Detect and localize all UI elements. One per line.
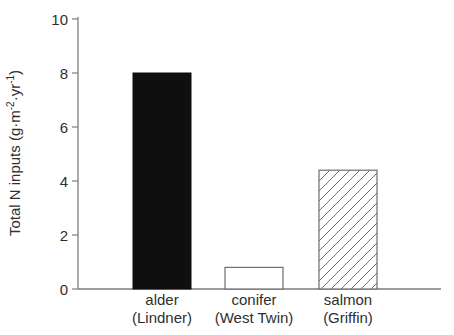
y-tick-label: 4 <box>60 173 68 190</box>
x-category-label-salmon: (Griffin) <box>323 309 373 326</box>
y-tick-label: 2 <box>60 227 68 244</box>
x-category-label-salmon: salmon <box>324 291 372 308</box>
bar-salmon <box>319 170 377 289</box>
y-tick-label: 8 <box>60 65 68 82</box>
x-category-label-conifer: (West Twin) <box>215 309 294 326</box>
y-axis-title: Total N inputs (g·m-2·yr-1) <box>5 70 23 236</box>
x-category-label-alder: (Lindner) <box>132 309 192 326</box>
y-tick-label: 10 <box>51 11 68 28</box>
bar-conifer <box>225 267 283 289</box>
chart-canvas: 0246810alder(Lindner)conifer(West Twin)s… <box>0 0 454 335</box>
y-tick-label: 0 <box>60 281 68 298</box>
x-category-label-conifer: conifer <box>231 291 276 308</box>
y-tick-label: 6 <box>60 119 68 136</box>
bar-chart-figure: 0246810alder(Lindner)conifer(West Twin)s… <box>0 0 454 335</box>
bar-alder <box>133 73 191 289</box>
x-category-label-alder: alder <box>145 291 178 308</box>
